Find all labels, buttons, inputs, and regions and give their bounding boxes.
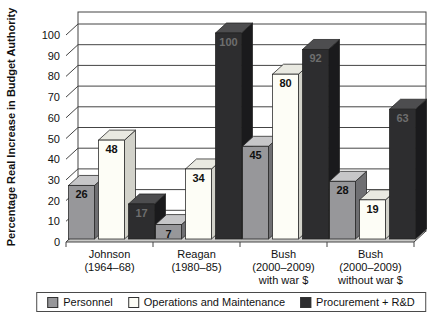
category-label: with war $ (258, 274, 309, 286)
y-tick-label: 10 (48, 215, 60, 227)
legend-label-operations-maintenance: Operations and Maintenance (144, 296, 285, 308)
x-axis: Johnson(1964–68)Reagan(1980–85)Bush(2000… (66, 242, 414, 286)
legend-swatch-operations-maintenance (128, 297, 139, 308)
bar-value-label: 80 (279, 77, 291, 89)
legend-item-personnel: Personnel (47, 296, 113, 308)
bar-value-label: 63 (396, 112, 408, 124)
legend-label-personnel: Personnel (63, 296, 113, 308)
bar-value-label: 7 (165, 228, 171, 240)
bar-value-label: 19 (366, 203, 378, 215)
bar-value-label: 48 (105, 143, 117, 155)
legend-item-procurement-rd: Procurement + R&D (300, 296, 415, 308)
legend-label-procurement-rd: Procurement + R&D (316, 296, 415, 308)
y-tick-label: 70 (48, 91, 60, 103)
bar-value-label: 45 (249, 149, 261, 161)
bar-chart-3d: Percentage Real Increase in Budget Autho… (0, 0, 440, 328)
category-label: Bush (271, 248, 296, 260)
bar-value-label: 100 (219, 36, 237, 48)
bar-value-label: 26 (75, 188, 87, 200)
category-label: Reagan (177, 248, 216, 260)
category-label: without war $ (337, 274, 403, 286)
category-label: (2000–2009) (339, 261, 401, 273)
bar-value-label: 92 (309, 52, 321, 64)
category-label: (2000–2009) (252, 261, 314, 273)
y-tick-label: 20 (48, 195, 60, 207)
y-axis-title: Percentage Real Increase in Budget Autho… (5, 7, 17, 246)
bar-value-label: 17 (135, 207, 147, 219)
legend: Personnel Operations and Maintenance Pro… (36, 292, 426, 312)
bar-value-label: 34 (192, 172, 205, 184)
bar-value-label: 28 (336, 184, 348, 196)
y-tick-label: 90 (48, 50, 60, 62)
y-tick-label: 0 (54, 236, 60, 248)
y-tick-label: 60 (48, 112, 60, 124)
category-label: Johnson (89, 248, 131, 260)
legend-swatch-personnel (47, 297, 58, 308)
category-label: (1964–68) (84, 261, 134, 273)
chart: Percentage Real Increase in Budget Autho… (0, 0, 440, 328)
category-label: (1980–85) (171, 261, 221, 273)
y-tick-label: 80 (48, 70, 60, 82)
legend-swatch-procurement-rd (300, 297, 311, 308)
category-label: Bush (358, 248, 383, 260)
y-tick-label: 50 (48, 133, 60, 145)
bar-procurement-r-d-c3: 63 (390, 99, 427, 239)
legend-item-operations-maintenance: Operations and Maintenance (128, 296, 285, 308)
y-tick-label: 100 (42, 29, 60, 41)
y-tick-label: 30 (48, 174, 60, 186)
y-tick-label: 40 (48, 153, 60, 165)
